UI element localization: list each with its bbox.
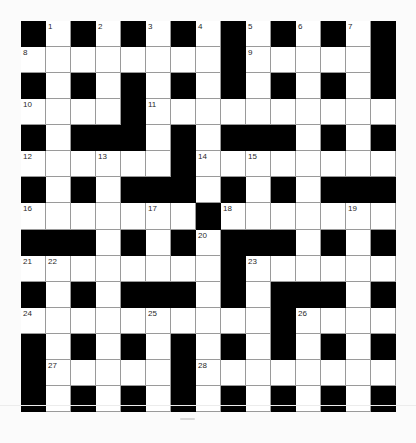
grid-cell[interactable]: 3 [146,21,171,47]
grid-cell[interactable] [296,203,321,229]
grid-cell[interactable] [346,47,371,73]
grid-cell[interactable] [271,47,296,73]
grid-cell[interactable] [296,360,321,386]
grid-cell[interactable] [196,282,221,308]
grid-cell[interactable] [121,203,146,229]
grid-cell[interactable]: 9 [246,47,271,73]
grid-cell[interactable] [146,125,171,151]
grid-cell[interactable] [371,308,396,334]
grid-cell[interactable] [346,256,371,282]
grid-cell[interactable] [321,151,346,177]
grid-cell[interactable] [121,47,146,73]
grid-cell[interactable] [371,203,396,229]
grid-cell[interactable] [321,99,346,125]
grid-cell[interactable]: 1 [46,21,71,47]
grid-cell[interactable] [246,177,271,203]
grid-cell[interactable] [296,256,321,282]
grid-cell[interactable] [196,308,221,334]
grid-cell[interactable] [246,99,271,125]
grid-cell[interactable]: 17 [146,203,171,229]
grid-cell[interactable] [246,360,271,386]
grid-cell[interactable] [96,99,121,125]
grid-cell[interactable]: 5 [246,21,271,47]
grid-cell[interactable] [221,99,246,125]
grid-cell[interactable] [346,386,371,412]
grid-cell[interactable] [371,360,396,386]
grid-cell[interactable] [96,308,121,334]
grid-cell[interactable] [46,386,71,412]
grid-cell[interactable] [96,230,121,256]
grid-cell[interactable] [321,256,346,282]
grid-cell[interactable] [296,177,321,203]
grid-cell[interactable] [346,334,371,360]
grid-cell[interactable] [271,151,296,177]
grid-cell[interactable]: 4 [196,21,221,47]
grid-cell[interactable] [271,360,296,386]
grid-cell[interactable] [321,203,346,229]
grid-cell[interactable] [71,256,96,282]
grid-cell[interactable]: 27 [46,360,71,386]
grid-cell[interactable] [96,334,121,360]
grid-cell[interactable] [296,230,321,256]
grid-cell[interactable] [196,47,221,73]
grid-cell[interactable] [46,151,71,177]
grid-cell[interactable] [46,177,71,203]
grid-cell[interactable]: 24 [21,308,46,334]
grid-cell[interactable] [196,177,221,203]
grid-cell[interactable] [196,73,221,99]
grid-cell[interactable]: 22 [46,256,71,282]
grid-cell[interactable] [246,73,271,99]
grid-cell[interactable] [221,360,246,386]
grid-cell[interactable] [271,99,296,125]
grid-cell[interactable] [371,151,396,177]
grid-cell[interactable]: 18 [221,203,246,229]
grid-cell[interactable] [246,386,271,412]
grid-cell[interactable] [171,47,196,73]
grid-cell[interactable] [96,256,121,282]
grid-cell[interactable] [46,125,71,151]
grid-cell[interactable]: 7 [346,21,371,47]
grid-cell[interactable] [296,99,321,125]
grid-cell[interactable] [296,386,321,412]
grid-cell[interactable] [146,73,171,99]
grid-cell[interactable] [146,360,171,386]
grid-cell[interactable] [96,386,121,412]
grid-cell[interactable] [271,203,296,229]
grid-cell[interactable] [346,99,371,125]
grid-cell[interactable] [146,230,171,256]
grid-cell[interactable]: 15 [246,151,271,177]
grid-cell[interactable] [346,308,371,334]
grid-cell[interactable] [71,99,96,125]
grid-cell[interactable] [71,151,96,177]
grid-cell[interactable] [196,99,221,125]
grid-cell[interactable] [46,99,71,125]
grid-cell[interactable] [371,99,396,125]
grid-cell[interactable] [296,334,321,360]
grid-cell[interactable] [171,256,196,282]
grid-cell[interactable]: 25 [146,308,171,334]
grid-cell[interactable] [346,360,371,386]
grid-cell[interactable] [246,308,271,334]
grid-cell[interactable] [146,256,171,282]
grid-cell[interactable] [321,47,346,73]
grid-cell[interactable]: 21 [21,256,46,282]
grid-cell[interactable] [346,282,371,308]
grid-cell[interactable] [196,386,221,412]
grid-cell[interactable] [121,360,146,386]
grid-cell[interactable] [71,308,96,334]
grid-cell[interactable]: 20 [196,230,221,256]
grid-cell[interactable] [296,73,321,99]
grid-cell[interactable]: 23 [246,256,271,282]
grid-cell[interactable] [96,47,121,73]
grid-cell[interactable] [346,73,371,99]
grid-cell[interactable] [296,47,321,73]
grid-cell[interactable] [121,151,146,177]
grid-cell[interactable] [171,99,196,125]
grid-cell[interactable]: 8 [21,47,46,73]
grid-cell[interactable]: 12 [21,151,46,177]
grid-cell[interactable]: 26 [296,308,321,334]
grid-cell[interactable]: 19 [346,203,371,229]
grid-cell[interactable] [196,125,221,151]
grid-cell[interactable]: 2 [96,21,121,47]
grid-cell[interactable] [146,386,171,412]
